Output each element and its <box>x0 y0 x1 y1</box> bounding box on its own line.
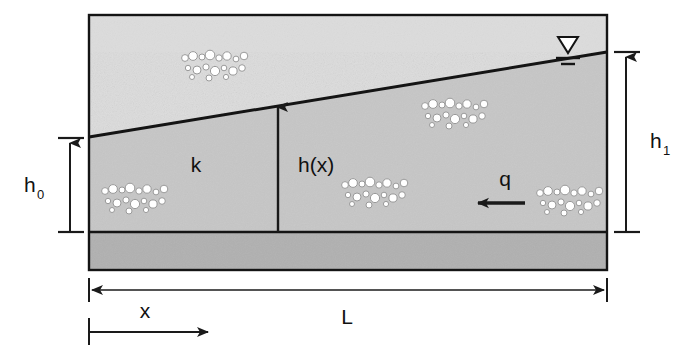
x-coordinate-label: x <box>140 299 151 322</box>
length-label: L <box>341 305 353 328</box>
hydraulic-conductivity-label: k <box>191 153 202 176</box>
aquifer-body <box>89 15 607 270</box>
h1-subscript: 1 <box>663 143 670 158</box>
flux-label: q <box>499 167 511 190</box>
h1-label: h <box>650 129 662 152</box>
h0-label: h <box>24 173 36 196</box>
head-at-x-label: h(x) <box>298 153 334 176</box>
diagram-canvas: h(x) k q h 0 h 1 L <box>0 0 689 363</box>
h0-subscript: 0 <box>37 187 44 202</box>
impermeable-base-layer <box>89 232 607 270</box>
aquifer-diagram: h(x) k q h 0 h 1 L <box>0 0 689 363</box>
